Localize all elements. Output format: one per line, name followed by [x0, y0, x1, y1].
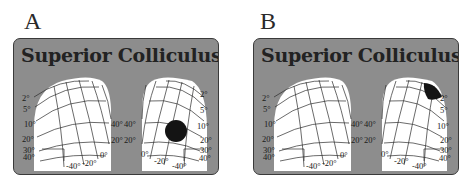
svg-text:5°: 5° [200, 105, 208, 115]
colliculus-maps: 2° 5° 10° 20° 30° 40° -40° -20° 0° 40° 2… [14, 39, 219, 175]
svg-text:40°: 40° [263, 152, 275, 162]
svg-text:40°: 40° [439, 153, 451, 163]
panel-a: Superior Colliculus 2° 5° 10° 20° [13, 38, 219, 175]
svg-text:-20°: -20° [82, 158, 97, 168]
svg-text:20°: 20° [440, 135, 452, 145]
right-colliculus-map: 2° 5° 10° 20° 30° 40° 0° -20° -40° 40° 2… [364, 78, 452, 172]
svg-text:-20°: -20° [154, 156, 169, 166]
svg-text:20°: 20° [111, 135, 123, 145]
svg-text:2°: 2° [200, 89, 208, 99]
svg-text:5°: 5° [440, 105, 448, 115]
svg-text:20°: 20° [364, 135, 376, 145]
svg-text:20°: 20° [22, 134, 34, 144]
svg-text:10°: 10° [264, 119, 276, 129]
svg-text:40°: 40° [111, 119, 123, 129]
svg-text:40°: 40° [199, 153, 211, 163]
svg-text:10°: 10° [197, 121, 209, 131]
svg-text:0°: 0° [141, 149, 149, 159]
svg-text:40°: 40° [124, 119, 136, 129]
svg-text:0°: 0° [100, 150, 108, 160]
right-colliculus-map: 2° 5° 10° 20° 30° 40° 0° -20° -40° 40° 2… [124, 78, 212, 172]
svg-text:2°: 2° [22, 93, 30, 103]
svg-text:0°: 0° [381, 149, 389, 159]
svg-text:20°: 20° [351, 135, 363, 145]
svg-text:-40°: -40° [412, 161, 427, 171]
figure-label-b: B [260, 9, 276, 33]
svg-text:20°: 20° [262, 134, 274, 144]
svg-text:40°: 40° [23, 152, 35, 162]
svg-text:-20°: -20° [394, 156, 409, 166]
svg-text:10°: 10° [24, 119, 36, 129]
svg-text:-40°: -40° [66, 161, 81, 171]
svg-text:0°: 0° [340, 150, 348, 160]
svg-text:2°: 2° [440, 93, 448, 103]
left-colliculus-map: 2° 5° 10° 20° 30° 40° -40° -20° 0° 40° 2… [262, 78, 363, 172]
panel-b: Superior Colliculus 2° 5° 10° 20° [253, 38, 459, 175]
svg-text:-40°: -40° [306, 161, 321, 171]
svg-text:20°: 20° [200, 135, 212, 145]
left-colliculus-map: 2° 5° 10° 20° 30° 40° -40° -20° 0° 40° 2… [22, 78, 123, 172]
svg-text:2°: 2° [262, 93, 270, 103]
svg-text:-20°: -20° [322, 158, 337, 168]
svg-text:5°: 5° [263, 104, 271, 114]
svg-text:10°: 10° [437, 121, 449, 131]
svg-text:5°: 5° [23, 104, 31, 114]
svg-text:20°: 20° [124, 135, 136, 145]
colliculus-maps: 2° 5° 10° 20° 30° 40° -40° -20° 0° 40° 2… [254, 39, 459, 175]
figure-label-a: A [24, 9, 41, 33]
activation-spot [165, 120, 187, 142]
svg-text:40°: 40° [351, 119, 363, 129]
svg-text:40°: 40° [364, 119, 376, 129]
svg-text:-40°: -40° [172, 161, 187, 171]
